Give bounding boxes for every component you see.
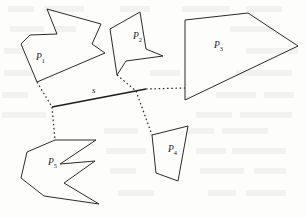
bridge-p1-to-segment [37,82,52,107]
label-p3: P3 [213,40,223,52]
label-p5-subscript: 5 [54,162,57,169]
polygon-diagram: P1 P2 P3 P4 P5 s [0,0,307,218]
label-p4-subscript: 4 [174,149,178,156]
polygon-p3 [185,13,298,100]
segment-s-line [52,89,146,107]
polygon-p2 [110,12,163,75]
label-p3-subscript: 3 [220,45,223,52]
label-p2-subscript: 2 [139,36,142,43]
label-p2: P2 [132,31,142,43]
polygon-p1 [21,9,105,82]
polygon-p5 [21,140,99,204]
label-p5: P5 [47,157,57,169]
figure-canvas: P1 P2 P3 P4 P5 s [0,0,307,218]
bridge-segment-to-p4 [136,91,152,135]
bridge-segment-to-p5 [52,107,55,140]
label-p4: P4 [167,144,178,156]
label-segment-s: s [92,85,96,95]
bridge-segment-to-p3 [146,88,185,89]
label-p1-subscript: 1 [42,57,45,64]
bridge-p2-to-segment [117,75,136,91]
label-p1: P1 [35,52,45,64]
